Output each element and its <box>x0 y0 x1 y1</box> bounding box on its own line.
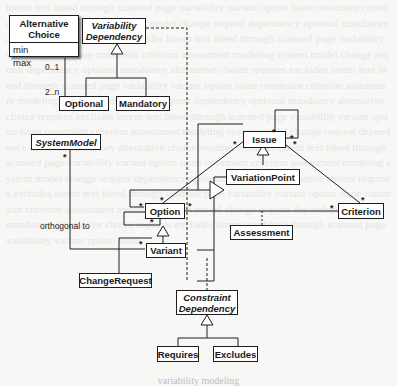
class-issue: Issue <box>243 131 286 148</box>
class-title: Criterion <box>341 206 381 217</box>
class-variability-dependency: Variability Dependency <box>82 18 146 44</box>
multiplicity-many: * <box>188 202 192 210</box>
multiplicity-2-n: 2..n <box>45 87 59 97</box>
multiplicity-many: * <box>139 202 143 210</box>
class-title: Excludes <box>215 349 257 360</box>
class-assessment: Assessment <box>230 225 293 240</box>
class-title: Requires <box>158 349 199 360</box>
class-optional: Optional <box>59 96 109 111</box>
class-change-request: ChangeRequest <box>79 273 152 288</box>
class-title: VariationPoint <box>231 172 295 183</box>
class-title: Constraint Dependency <box>177 292 237 314</box>
generalization-arrow-constraint <box>201 315 213 325</box>
class-variation-point: VariationPoint <box>226 169 300 185</box>
class-title: SystemModel <box>35 137 96 148</box>
class-title: Variability Dependency <box>83 20 145 42</box>
multiplicity-many: * <box>139 240 143 248</box>
multiplicity-many: * <box>63 153 67 161</box>
class-excludes: Excludes <box>213 346 258 362</box>
association-label-orthogonal-to: orthogonal to <box>40 221 90 231</box>
class-mandatory: Mandatory <box>116 96 170 111</box>
generalization-arrow-variationpoint <box>210 181 224 199</box>
figure-caption: variability modeling <box>0 375 397 386</box>
multiplicity-many: * <box>293 140 297 148</box>
multiplicity-many: * <box>330 204 334 212</box>
generalization-arrow-variability <box>111 44 123 54</box>
multiplicity-many: * <box>361 196 365 204</box>
generalization-arrow-option <box>157 226 169 236</box>
class-title: Optional <box>65 98 104 109</box>
class-title: ChangeRequest <box>79 275 151 286</box>
multiplicity-many: * <box>160 196 164 204</box>
multiplicity-many: * <box>233 140 237 148</box>
class-title: Variant <box>150 245 182 256</box>
attribute-max: max <box>10 56 78 69</box>
class-criterion: Criterion <box>338 203 384 219</box>
class-title: Option <box>150 206 181 217</box>
class-title: Alternative Choice <box>10 16 78 43</box>
class-system-model: SystemModel <box>31 134 101 150</box>
multiplicity-many: * <box>272 128 276 136</box>
class-title: Mandatory <box>119 98 167 109</box>
attribute-min: min <box>10 43 78 56</box>
class-requires: Requires <box>157 346 199 362</box>
multiplicity-many: * <box>150 218 154 226</box>
class-title: Assessment <box>234 227 290 238</box>
class-constraint-dependency: Constraint Dependency <box>176 290 238 315</box>
multiplicity-0-1: 0..1 <box>45 62 59 72</box>
class-alternative-choice: Alternative Choice min max <box>9 15 79 57</box>
class-variant: Variant <box>146 243 186 258</box>
